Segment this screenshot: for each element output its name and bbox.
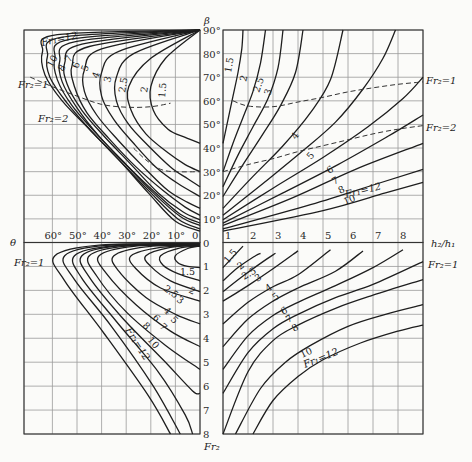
svg-text:6: 6: [203, 381, 209, 392]
svg-text:1.5: 1.5: [180, 266, 195, 277]
svg-text:3: 3: [203, 309, 209, 320]
svg-text:50°: 50°: [69, 230, 87, 241]
svg-text:5: 5: [203, 357, 209, 368]
svg-text:8: 8: [290, 321, 301, 334]
svg-text:5: 5: [304, 150, 316, 162]
svg-text:3: 3: [101, 75, 113, 84]
svg-text:3: 3: [275, 230, 281, 241]
svg-text:Fr₂: Fr₂: [203, 441, 220, 452]
svg-text:60°: 60°: [203, 96, 221, 107]
svg-text:7: 7: [375, 230, 381, 241]
svg-text:1.5: 1.5: [222, 57, 235, 74]
svg-text:Fr₂=1: Fr₂=1: [17, 79, 48, 90]
nomogram-chart: 90°80°70°60°50°40°30°20°10°060°50°40°30°…: [0, 0, 472, 462]
svg-text:0: 0: [203, 238, 209, 249]
svg-text:1.5: 1.5: [156, 82, 168, 98]
svg-text:4: 4: [300, 230, 306, 241]
svg-text:30°: 30°: [118, 230, 136, 241]
svg-text:7: 7: [203, 405, 209, 416]
svg-text:6: 6: [350, 230, 356, 241]
svg-text:7: 7: [158, 321, 170, 333]
svg-text:θ: θ: [10, 237, 16, 248]
curve-Fr1=1.5: [175, 246, 200, 268]
svg-text:1: 1: [225, 230, 231, 241]
svg-text:Fr₂=1: Fr₂=1: [13, 257, 44, 268]
svg-text:10°: 10°: [203, 214, 221, 225]
svg-text:5: 5: [325, 230, 331, 241]
curve-Fr1=8: [54, 30, 200, 226]
svg-text:h₂/h₁: h₂/h₁: [431, 238, 455, 249]
curve-Fr1=7: [59, 30, 200, 223]
svg-text:Fr₂=1: Fr₂=1: [427, 259, 458, 270]
svg-text:50°: 50°: [203, 119, 221, 130]
svg-text:Fr₁=12: Fr₁=12: [39, 30, 78, 49]
svg-text:2: 2: [250, 230, 256, 241]
svg-text:6: 6: [151, 312, 163, 324]
svg-text:Fr₂=2: Fr₂=2: [37, 113, 68, 124]
svg-text:β: β: [203, 15, 210, 26]
svg-text:5: 5: [79, 63, 91, 72]
svg-text:2: 2: [203, 285, 209, 296]
svg-text:40°: 40°: [203, 143, 221, 154]
svg-text:80°: 80°: [203, 49, 221, 60]
svg-text:8: 8: [400, 230, 406, 241]
svg-text:1: 1: [203, 261, 209, 272]
svg-text:90°: 90°: [203, 25, 221, 36]
svg-text:0: 0: [192, 230, 198, 241]
svg-text:8: 8: [203, 429, 209, 440]
svg-text:5: 5: [169, 314, 181, 326]
svg-text:4: 4: [90, 70, 102, 79]
svg-text:2: 2: [138, 85, 150, 93]
svg-text:30°: 30°: [203, 167, 221, 178]
curve-Fr1=6: [64, 30, 200, 220]
svg-text:Fr₂=2: Fr₂=2: [425, 122, 456, 133]
svg-text:20°: 20°: [203, 190, 221, 201]
svg-text:4: 4: [162, 305, 174, 317]
svg-text:5: 5: [270, 290, 281, 302]
svg-text:70°: 70°: [203, 72, 221, 83]
svg-text:60°: 60°: [44, 230, 62, 241]
svg-text:6: 6: [325, 163, 336, 176]
curve-Fr1=12: [253, 325, 423, 434]
svg-text:8: 8: [55, 62, 68, 73]
curve-Fr1=4: [112, 245, 200, 324]
svg-text:40°: 40°: [94, 230, 112, 241]
svg-text:4: 4: [203, 333, 209, 344]
svg-text:20°: 20°: [143, 230, 161, 241]
svg-text:10°: 10°: [167, 230, 185, 241]
curve-Fr1=5: [71, 30, 200, 215]
svg-text:Fr₂=1: Fr₂=1: [425, 75, 456, 86]
